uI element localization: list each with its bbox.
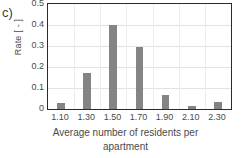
bar — [57, 103, 65, 109]
x-tick-label: 1.10 — [51, 113, 69, 122]
y-axis-tick-labels: 00.10.20.30.40.5 — [22, 3, 44, 110]
x-tick-label: 1.30 — [77, 113, 95, 122]
bar — [214, 102, 222, 109]
x-tick-label: 2.30 — [208, 113, 226, 122]
y-axis-title-wrapper: Rate [ - ] — [7, 7, 21, 67]
y-tick-label: 0.5 — [31, 0, 44, 8]
bar — [109, 25, 117, 109]
y-tick-label: 0 — [39, 104, 44, 113]
y-tick-label: 0.2 — [31, 62, 44, 71]
bar-series — [48, 4, 231, 109]
y-tick-label: 0.4 — [31, 20, 44, 29]
bar — [162, 95, 170, 109]
x-tick-label: 1.50 — [104, 113, 122, 122]
y-tick-label: 0.3 — [31, 41, 44, 50]
bar — [136, 47, 144, 109]
x-tick-label: 1.90 — [156, 113, 174, 122]
x-tick-label: 2.10 — [182, 113, 200, 122]
plot-area — [47, 3, 232, 110]
x-axis-title-line-2: apartment — [18, 140, 233, 154]
chart-figure: c) Rate [ - ] 00.10.20.30.40.5 1.101.301… — [0, 0, 241, 158]
x-axis-title: Average number of residents per apartmen… — [18, 126, 233, 154]
y-tick-label: 0.1 — [31, 83, 44, 92]
x-axis-title-line-1: Average number of residents per — [53, 127, 198, 138]
x-tick-label: 1.70 — [130, 113, 148, 122]
bar — [83, 73, 91, 109]
bar — [188, 106, 196, 109]
x-axis-tick-labels: 1.101.301.501.701.902.102.30 — [47, 112, 232, 125]
